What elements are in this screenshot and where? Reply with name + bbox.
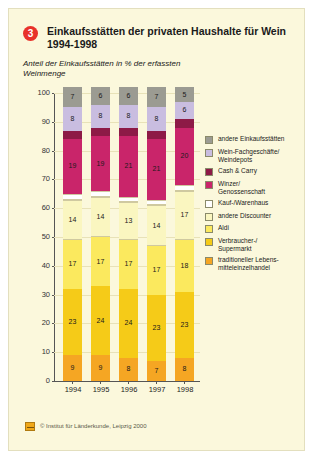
legend-item[interactable]: Cash & Carry — [205, 167, 305, 176]
bar-segment-value: 17 — [63, 260, 82, 268]
bar-segment-value: 23 — [147, 324, 166, 332]
legend-item-label: Aldi — [218, 224, 305, 232]
y-axis-tick-label: 0 — [32, 376, 50, 385]
bar-segment-value: 23 — [63, 318, 82, 326]
bar-segment: 17 — [63, 240, 82, 289]
bar-1995: 68191417249 — [91, 87, 110, 381]
bar-segment-value: 14 — [147, 222, 166, 230]
bar-segment-value: 21 — [147, 165, 166, 173]
bar-segment: 8 — [119, 105, 138, 128]
y-axis-tick-label: 80 — [32, 146, 50, 155]
bar-segment: 6 — [175, 102, 194, 119]
bar-segment-value: 24 — [91, 317, 110, 325]
y-axis-tick-label: 60 — [32, 203, 50, 212]
legend-swatch-icon — [205, 257, 213, 265]
bar-segment-value: 8 — [119, 112, 138, 120]
legend-item[interactable]: Winzer/Genossenschaft — [205, 180, 305, 196]
y-axis-tick-label: 50 — [32, 232, 50, 241]
legend-swatch-icon — [205, 181, 213, 189]
bar-segment-value: 8 — [91, 112, 110, 120]
bar-segment — [91, 128, 110, 137]
x-axis-tick-label: 1998 — [170, 385, 200, 394]
legend-item[interactable]: Verbraucher-/Supermarkt — [205, 237, 305, 253]
bar-segment-value: 17 — [147, 266, 166, 274]
x-axis-tick-mark — [128, 381, 129, 384]
bar-segment: 8 — [63, 107, 82, 130]
x-axis-tick-mark — [184, 381, 185, 384]
legend-item[interactable]: Aldi — [205, 224, 305, 233]
legend-item-label: Verbraucher-/Supermarkt — [218, 237, 305, 253]
figure-number-badge: 3 — [23, 26, 38, 41]
x-axis-tick-label: 1995 — [86, 385, 116, 394]
legend-item[interactable]: andere Discounter — [205, 212, 305, 221]
legend-item[interactable]: Kauf-/Warenhaus — [205, 199, 305, 208]
x-axis-tick-label: 1997 — [142, 385, 172, 394]
bar-segment: 6 — [119, 87, 138, 104]
bar-segment-value: 18 — [175, 262, 194, 270]
bar-segment-value: 17 — [119, 260, 138, 268]
bar-segment-value: 9 — [91, 364, 110, 372]
bar-segment-value: 8 — [147, 115, 166, 123]
bar-segment: 20 — [175, 128, 194, 186]
bar-segment-value: 8 — [119, 365, 138, 373]
bar-segment: 23 — [175, 292, 194, 358]
chart-footer: © Institut für Länderkunde, Leipzig 2000 — [25, 422, 290, 434]
y-axis-tick-label: 10 — [32, 347, 50, 356]
bar-segment: 24 — [119, 289, 138, 358]
bar-segment-value: 5 — [175, 91, 194, 99]
bar-segment: 9 — [63, 355, 82, 381]
bar-segment: 14 — [147, 205, 166, 245]
bar-segment-value: 19 — [91, 160, 110, 168]
bar-segment-value: 8 — [63, 115, 82, 123]
bar-segment — [63, 131, 82, 140]
bar-segment-value: 7 — [147, 93, 166, 101]
y-axis-tick-label: 20 — [32, 318, 50, 327]
bar-segment-value: 13 — [119, 217, 138, 225]
legend-swatch-icon — [205, 168, 213, 176]
bar-segment: 19 — [91, 136, 110, 191]
page-title: Einkaufsstätten der privaten Haushalte f… — [47, 25, 293, 50]
bar-1996: 68211317248 — [119, 87, 138, 381]
bar-segment: 6 — [91, 87, 110, 104]
bar-segment: 21 — [147, 139, 166, 199]
chart-card: 3 Einkaufsstätten der privaten Haushalte… — [8, 8, 305, 451]
bar-segment-value: 20 — [175, 152, 194, 160]
bar-segment-value: 14 — [91, 213, 110, 221]
bar-segment — [119, 128, 138, 137]
bar-segment: 7 — [147, 87, 166, 107]
bar-segment: 23 — [147, 295, 166, 361]
legend-item[interactable]: andere Einkaufsstätten — [205, 135, 305, 144]
bar-segment — [175, 119, 194, 128]
bar-segment-value: 8 — [175, 365, 194, 373]
legend-swatch-icon — [205, 213, 213, 221]
bar-segment-value: 17 — [91, 258, 110, 266]
bar-segment: 13 — [119, 202, 138, 239]
legend-item[interactable]: Wein-Fachgeschäfte/Weindepots — [205, 148, 305, 164]
legend-swatch-icon — [205, 136, 213, 144]
bar-segment: 23 — [63, 289, 82, 355]
x-axis-tick-label: 1996 — [114, 385, 144, 394]
legend-item-label: Wein-Fachgeschäfte/Weindepots — [218, 148, 305, 164]
legend-item-label: andere Discounter — [218, 212, 305, 220]
bar-1998: 56201718238 — [175, 87, 194, 381]
legend-swatch-icon — [205, 200, 213, 208]
bar-segment: 17 — [147, 246, 166, 295]
bar-segment: 24 — [91, 286, 110, 355]
x-axis-tick-mark — [72, 381, 73, 384]
x-axis-tick-label: 1994 — [58, 385, 88, 394]
chart-legend: andere EinkaufsstättenWein-Fachgeschäfte… — [205, 135, 305, 276]
y-axis-tick-mark — [52, 381, 55, 382]
bar-segment-value: 14 — [63, 216, 82, 224]
bar-segment-value: 17 — [175, 211, 194, 219]
y-axis-tick-label: 90 — [32, 117, 50, 126]
legend-item-label: traditioneller Lebens-mitteleinzelhandel — [218, 256, 305, 272]
legend-item[interactable]: traditioneller Lebens-mitteleinzelhandel — [205, 256, 305, 272]
bar-segment-value: 7 — [63, 93, 82, 101]
bar-segment-value: 24 — [119, 319, 138, 327]
bar-segment: 14 — [63, 200, 82, 240]
bar-segment-value: 23 — [175, 321, 194, 329]
bar-segment: 14 — [91, 197, 110, 237]
bar-1994: 78191417239 — [63, 87, 82, 381]
stacked-bar-chart: 0102030405060708090100 78191417239681914… — [32, 93, 200, 397]
bar-segment-value: 7 — [147, 367, 166, 375]
